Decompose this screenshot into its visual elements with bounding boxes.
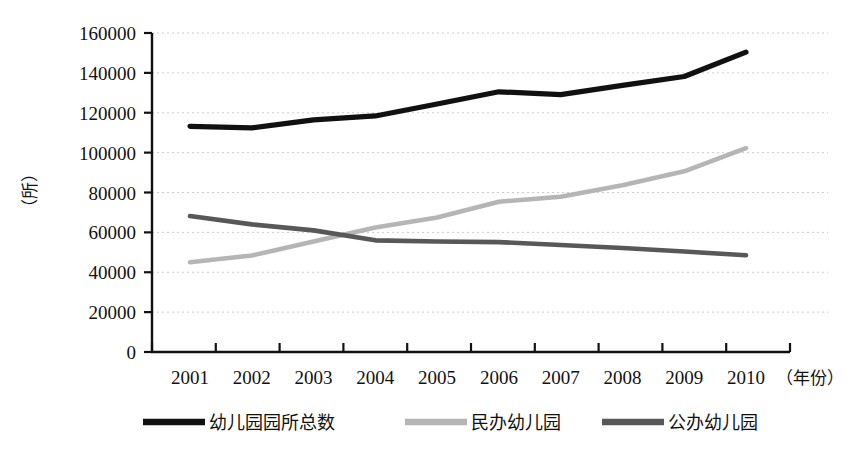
y-axis-tick-label: 140000 (79, 63, 136, 84)
x-axis-tick-label: 2003 (295, 367, 333, 388)
x-axis-tick-label: 2008 (603, 367, 641, 388)
y-axis-caption: （所） (20, 165, 40, 216)
y-axis-tick-labels: 0200004000060000800001000001200001400001… (79, 23, 136, 363)
legend-label: 民办幼儿园 (471, 412, 561, 433)
line-chart: 0200004000060000800001000001200001400001… (0, 0, 857, 458)
x-axis-tick-label: 2007 (542, 367, 580, 388)
x-axis-tick-label: 2001 (171, 367, 209, 388)
y-axis-tick-label: 60000 (89, 222, 137, 243)
y-axis-tick-label: 20000 (89, 302, 137, 323)
y-axis-tick-label: 40000 (89, 262, 137, 283)
y-axis-tick-label: 100000 (79, 143, 136, 164)
x-axis-tick-label: 2005 (418, 367, 456, 388)
y-axis-tick-label: 80000 (89, 183, 137, 204)
x-axis-tick-label: 2004 (356, 367, 395, 388)
y-axis-tick-label: 0 (127, 342, 137, 363)
x-axis-caption: （年份） (776, 368, 844, 388)
legend-label: 幼儿园园所总数 (209, 412, 335, 433)
x-axis-tick-label: 2002 (233, 367, 271, 388)
x-axis-tick-label: 2010 (727, 367, 765, 388)
legend-label: 公办幼儿园 (668, 412, 758, 433)
y-axis-tick-label: 160000 (79, 23, 136, 44)
chart-container: 0200004000060000800001000001200001400001… (0, 0, 857, 458)
y-axis-tick-label: 120000 (79, 103, 136, 124)
x-axis-tick-label: 2009 (665, 367, 703, 388)
x-axis-tick-label: 2006 (480, 367, 518, 388)
